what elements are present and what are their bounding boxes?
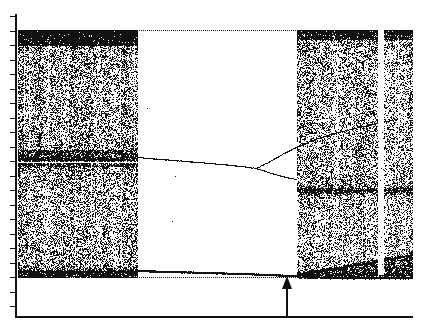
bifurcation-diagram-figure <box>0 0 424 334</box>
attractor-plot <box>17 15 413 316</box>
y-axis-tick <box>10 16 15 17</box>
y-axis-tick <box>10 89 15 90</box>
y-axis-tick <box>10 147 15 148</box>
y-axis-tick <box>10 219 15 220</box>
y-axis-tick <box>10 248 15 249</box>
y-axis-tick <box>10 176 15 177</box>
y-axis-tick <box>10 205 15 206</box>
arrow-shaft <box>286 284 288 316</box>
y-axis-tick <box>10 277 15 278</box>
y-axis-tick <box>10 234 15 235</box>
y-axis-tick <box>10 263 15 264</box>
y-axis-tick <box>10 31 15 32</box>
x-axis-line <box>15 316 413 318</box>
y-axis-tick <box>10 74 15 75</box>
y-axis-tick <box>10 306 15 307</box>
y-axis-tick <box>10 161 15 162</box>
y-axis-tick <box>10 60 15 61</box>
y-axis-tick <box>10 118 15 119</box>
y-axis-tick <box>10 103 15 104</box>
y-axis-tick <box>10 45 15 46</box>
y-axis-tick <box>10 292 15 293</box>
plot-area <box>17 15 413 316</box>
y-axis-tick <box>10 132 15 133</box>
y-axis-tick <box>10 190 15 191</box>
up-arrow-marker <box>282 276 293 316</box>
